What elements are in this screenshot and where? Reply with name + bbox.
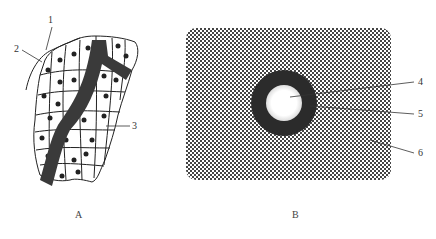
callout-3: 3: [132, 120, 137, 131]
light-core: [266, 85, 302, 121]
callout-1: 1: [48, 14, 53, 25]
callout-4: 4: [418, 76, 423, 87]
figure-caption: [130, 228, 350, 234]
callout-5: 5: [418, 108, 423, 119]
panel-label-a: A: [75, 209, 82, 220]
figure-canvas: [0, 0, 436, 239]
callout-2: 2: [14, 43, 19, 54]
panel-label-b: B: [292, 209, 299, 220]
callout-6: 6: [418, 147, 423, 158]
